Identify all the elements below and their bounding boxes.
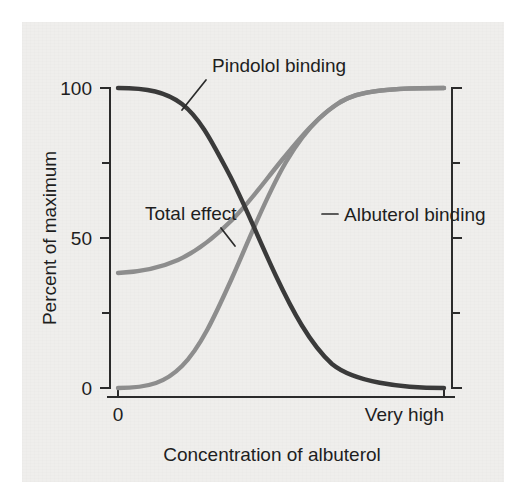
series-curve-pindolol-binding (118, 88, 444, 388)
y-axis-title: Percent of maximum (39, 151, 60, 325)
figure-root: Pindolol binding Total effect Albuterol … (0, 0, 526, 504)
x-tick-label-start: 0 (113, 404, 124, 425)
leader-line-total-effect (221, 228, 235, 246)
leader-line-pindolol (182, 80, 206, 110)
x-axis-title: Concentration of albuterol (163, 444, 381, 465)
y-tick-label-50: 50 (71, 228, 92, 249)
series-curve-total-effect (118, 88, 444, 273)
series-label-total-effect: Total effect (145, 203, 237, 224)
series-curve-albuterol-binding (118, 88, 444, 388)
y-tick-label-0: 0 (81, 378, 92, 399)
chart-plot: Pindolol binding Total effect Albuterol … (0, 0, 526, 504)
y-tick-label-100: 100 (60, 78, 92, 99)
x-tick-label-end: Very high (365, 404, 444, 425)
series-label-albuterol-binding: Albuterol binding (344, 204, 486, 225)
series-label-pindolol-binding: Pindolol binding (212, 55, 346, 76)
